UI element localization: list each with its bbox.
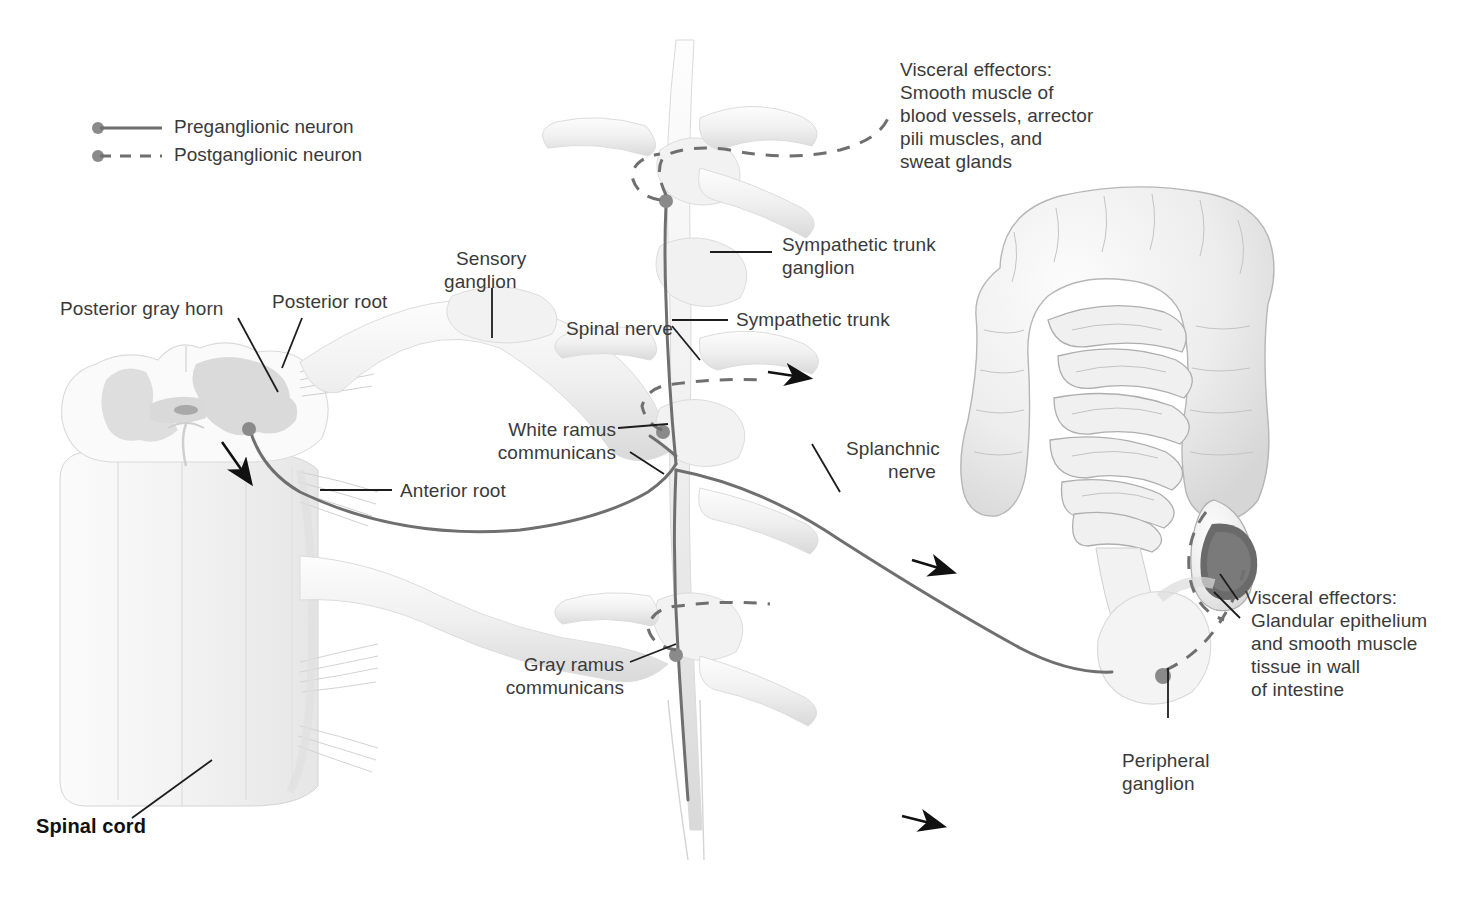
label-spinal-nerve: Spinal nerve (566, 317, 673, 340)
label-anterior-root: Anterior root (400, 479, 506, 502)
label-sensory-ganglion-line2: ganglion (444, 270, 517, 293)
intestine-drawing (961, 187, 1274, 646)
legend-swatches (92, 122, 162, 162)
label-spinal-cord: Spinal cord (36, 815, 146, 838)
label-visceral-effectors-top-line5: sweat glands (900, 150, 1012, 173)
label-visceral-effectors-bottom-line5: of intestine (1251, 678, 1344, 701)
label-splanchnic-nerve-line2: nerve (888, 460, 936, 483)
label-gray-ramus-line1: Gray ramus (420, 653, 624, 676)
legend-label-postganglionic: Postganglionic neuron (174, 144, 362, 166)
figure-canvas: Preganglionic neuron Postganglionic neur… (0, 0, 1476, 904)
label-peripheral-ganglion-line1: Peripheral (1122, 749, 1210, 772)
label-visceral-effectors-top-line3: blood vessels, arrector (900, 104, 1093, 127)
label-visceral-effectors-top-line4: pili muscles, and (900, 127, 1042, 150)
label-sympathetic-trunk-ganglion-line1: Sympathetic trunk (782, 233, 936, 256)
label-sensory-ganglion-line1: Sensory (456, 247, 526, 270)
label-posterior-gray-horn: Posterior gray horn (60, 297, 223, 320)
label-visceral-effectors-top-line1: Visceral effectors: (900, 58, 1052, 81)
label-gray-ramus-line2: communicans (420, 676, 624, 699)
label-posterior-root: Posterior root (272, 290, 387, 313)
label-sympathetic-trunk: Sympathetic trunk (736, 308, 890, 331)
label-visceral-effectors-bottom-line1: Visceral effectors: (1245, 586, 1397, 609)
legend-label-preganglionic: Preganglionic neuron (174, 116, 354, 138)
label-splanchnic-nerve-line1: Splanchnic (846, 437, 940, 460)
label-visceral-effectors-top-line2: Smooth muscle of (900, 81, 1054, 104)
label-visceral-effectors-bottom-line2: Glandular epithelium (1251, 609, 1427, 632)
label-visceral-effectors-bottom-line4: tissue in wall (1251, 655, 1360, 678)
label-white-ramus-line1: White ramus (400, 418, 616, 441)
label-visceral-effectors-bottom-line3: and smooth muscle (1251, 632, 1417, 655)
label-peripheral-ganglion-line2: ganglion (1122, 772, 1195, 795)
label-white-ramus-line2: communicans (400, 441, 616, 464)
label-sympathetic-trunk-ganglion-line2: ganglion (782, 256, 855, 279)
